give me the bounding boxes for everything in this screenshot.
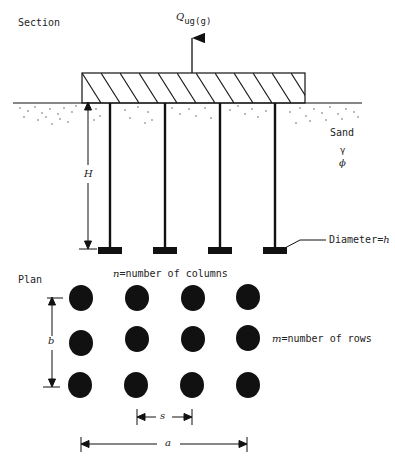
columns-text: =number of columns: [119, 268, 227, 279]
plan-columns: [68, 284, 260, 398]
friction-angle-label: ϕ: [339, 157, 346, 168]
diameter-label: Diameter=h: [329, 234, 390, 245]
sand-stipple: [19, 105, 358, 124]
depth-label: H: [84, 168, 93, 179]
rows-label: m=number of rows: [272, 333, 372, 344]
plan-title: Plan: [18, 274, 42, 285]
section-title: Section: [18, 17, 60, 28]
diameter-text: Diameter=: [329, 234, 383, 245]
diameter-var: h: [383, 234, 389, 245]
rows-text: =number of rows: [281, 333, 371, 344]
diameter-leader: [283, 240, 326, 249]
piles: [110, 103, 275, 248]
load-symbol: Q: [176, 11, 184, 22]
diagram-graphics: [0, 0, 395, 462]
unit-weight-label: γ: [340, 145, 345, 155]
columns-label: n=number of columns: [113, 268, 228, 279]
s-dimension-label: s: [160, 410, 165, 421]
pile-bells: [98, 247, 287, 254]
a-dimension-label: a: [165, 437, 171, 448]
soil-label: Sand: [330, 127, 354, 138]
load-subscript: ug(g): [184, 16, 211, 26]
width-a-dimension: [81, 437, 247, 452]
pile-group-diagram: Section Qug(g) Sand γ ϕ H Diameter=h Pla…: [0, 0, 395, 462]
uplift-load-label: Qug(g): [176, 11, 211, 22]
b-dimension-label: b: [48, 335, 54, 346]
pile-cap: [82, 73, 305, 103]
